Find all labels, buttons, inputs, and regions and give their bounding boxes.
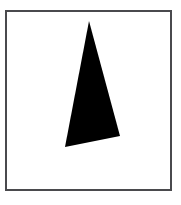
image-canvas: Black triangle inside a thin rectangular…	[0, 0, 181, 205]
figure-svg	[0, 0, 181, 205]
